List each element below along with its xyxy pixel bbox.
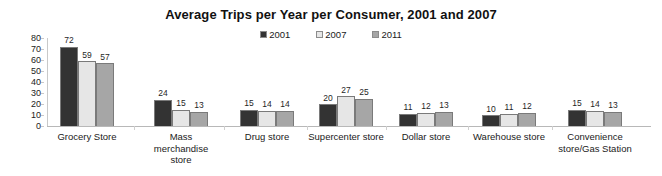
bar-column: 11 — [399, 38, 417, 126]
y-axis-tick-label: 30 — [31, 89, 41, 98]
bar-value-label: 12 — [417, 102, 435, 111]
bar — [190, 112, 208, 126]
x-axis-group-separator — [468, 126, 469, 130]
x-axis-category-label: Grocery Store — [41, 131, 133, 143]
x-axis-category-labels: Grocery StoreMass merchandise storeDrug … — [47, 131, 651, 176]
bar — [604, 112, 622, 126]
x-axis-category-label: Convenience store/Gas Station — [540, 131, 650, 154]
bar-column: 20 — [319, 38, 337, 126]
y-axis-tick-mark — [41, 126, 44, 127]
bar-group: 202725 — [319, 38, 373, 126]
y-axis-tick-mark — [41, 38, 44, 39]
bar-column: 57 — [96, 38, 114, 126]
bar — [355, 99, 373, 127]
bar-column: 14 — [276, 38, 294, 126]
bar-chart: Average Trips per Year per Consumer, 200… — [0, 0, 662, 176]
bar — [337, 96, 355, 126]
bar-value-label: 57 — [96, 53, 114, 62]
y-axis-tick-mark — [41, 82, 44, 83]
bar-value-label: 20 — [319, 94, 337, 103]
bar-groups: 7259572415131514142027251112131011121514… — [47, 38, 651, 126]
bar — [568, 110, 586, 127]
bar — [435, 112, 453, 126]
bar-column: 13 — [190, 38, 208, 126]
y-axis-tick-mark — [41, 93, 44, 94]
bar-value-label: 13 — [604, 101, 622, 110]
x-axis-category-label: Drug store — [227, 131, 307, 143]
y-axis-tick-labels: 80706050403020100 — [3, 32, 41, 132]
bar — [417, 113, 435, 126]
bar-value-label: 15 — [240, 99, 258, 108]
bar — [60, 47, 78, 126]
bar-column: 14 — [586, 38, 604, 126]
y-axis-tick-label: 50 — [31, 67, 41, 76]
bar — [500, 114, 518, 126]
chart-title: Average Trips per Year per Consumer, 200… — [0, 7, 662, 22]
bar — [399, 114, 417, 126]
bar-column: 13 — [604, 38, 622, 126]
y-axis-tick-label: 60 — [31, 56, 41, 65]
bar-value-label: 11 — [500, 103, 518, 112]
bar-column: 27 — [337, 38, 355, 126]
bar-group: 111213 — [399, 38, 453, 126]
bar-column: 72 — [60, 38, 78, 126]
y-axis-tick-mark — [41, 71, 44, 72]
bar — [319, 104, 337, 126]
bar-value-label: 10 — [482, 105, 500, 114]
bar-group: 151414 — [240, 38, 294, 126]
bar-value-label: 12 — [518, 102, 536, 111]
y-axis-tick-mark — [41, 60, 44, 61]
y-axis-tick-label: 70 — [31, 45, 41, 54]
y-axis-tick-mark — [41, 49, 44, 50]
bar-value-label: 25 — [355, 88, 373, 97]
bar-value-label: 13 — [190, 101, 208, 110]
bar-column: 15 — [568, 38, 586, 126]
bar-value-label: 14 — [276, 100, 294, 109]
bar-value-label: 14 — [586, 100, 604, 109]
y-axis-tick-mark — [41, 115, 44, 116]
bar-value-label: 24 — [154, 89, 172, 98]
bar — [518, 113, 536, 126]
bar-column: 15 — [172, 38, 190, 126]
bar-value-label: 15 — [568, 99, 586, 108]
x-axis-category-label: Supercenter store — [300, 131, 392, 143]
x-axis-group-separator — [307, 126, 308, 130]
bar-value-label: 72 — [60, 36, 78, 45]
bar — [154, 100, 172, 126]
bar-value-label: 59 — [78, 51, 96, 60]
bar — [482, 115, 500, 126]
x-axis-category-label: Dollar store — [386, 131, 466, 143]
bar-group: 101112 — [482, 38, 536, 126]
bar — [172, 110, 190, 127]
plot-area: 80706050403020100 7259572415131514142027… — [47, 38, 651, 126]
bar — [240, 110, 258, 127]
bar-value-label: 14 — [258, 100, 276, 109]
y-axis-tick-label: 40 — [31, 78, 41, 87]
bar-value-label: 15 — [172, 99, 190, 108]
x-axis-category-label: Mass merchandise store — [141, 131, 221, 166]
bar-group: 151413 — [568, 38, 622, 126]
bar-column: 11 — [500, 38, 518, 126]
bar-column: 25 — [355, 38, 373, 126]
x-axis-group-separator — [386, 126, 387, 130]
bar-column: 12 — [417, 38, 435, 126]
x-axis-group-separator — [134, 126, 135, 130]
bar-column: 13 — [435, 38, 453, 126]
x-axis-group-separator — [552, 126, 553, 130]
bar — [258, 111, 276, 126]
bar-column: 10 — [482, 38, 500, 126]
bar-column: 59 — [78, 38, 96, 126]
bar-column: 15 — [240, 38, 258, 126]
x-axis-group-separator — [224, 126, 225, 130]
bar — [276, 111, 294, 126]
y-axis-tick-mark — [41, 104, 44, 105]
bar-column: 12 — [518, 38, 536, 126]
bar-value-label: 11 — [399, 103, 417, 112]
bar-group: 725957 — [60, 38, 114, 126]
bar-column: 24 — [154, 38, 172, 126]
bar — [78, 61, 96, 126]
bar-column: 14 — [258, 38, 276, 126]
y-axis-tick-label: 20 — [31, 100, 41, 109]
bar — [586, 111, 604, 126]
y-axis-tick-label: 10 — [31, 111, 41, 120]
